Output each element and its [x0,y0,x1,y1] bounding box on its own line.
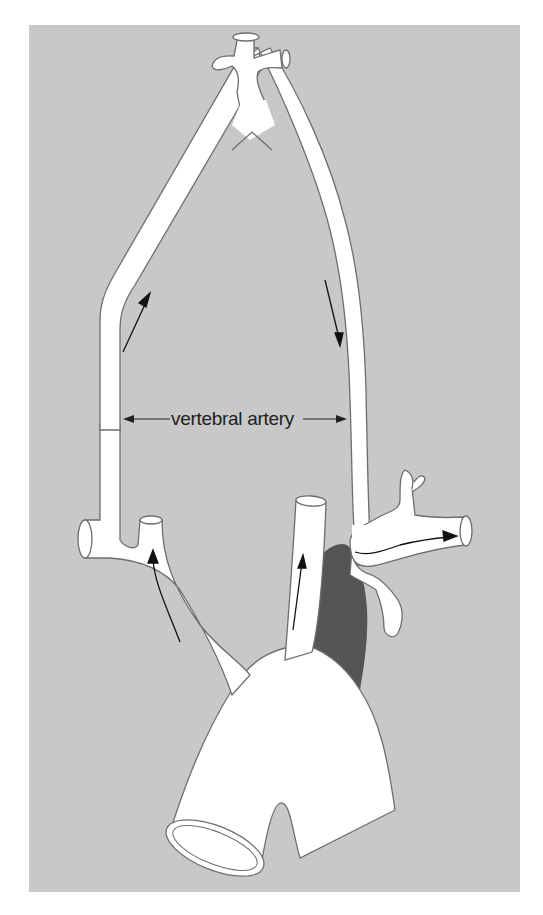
vertebral-subclavian-join [352,525,368,555]
right-subclavian-opening [78,520,92,558]
basilar-right-branch-opening [282,50,290,68]
vertebral-artery-diagram: vertebral artery [0,0,543,915]
basilar-top-opening [233,33,259,41]
left-subclavian-opening [460,516,472,546]
right-carotid-opening [140,516,162,524]
vertebral-artery-label-text: vertebral artery [171,408,295,429]
